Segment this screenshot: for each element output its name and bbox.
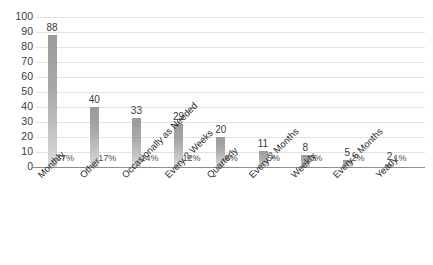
y-axis-tick-label: 100 [0,11,33,22]
y-axis: 1009080706050403020100 [0,0,33,167]
bar-percent-label: 8% [225,154,238,163]
bar [48,35,57,167]
gridline [36,77,425,78]
y-axis-tick-label: 80 [0,41,33,52]
y-axis-tick-label: 10 [0,146,33,157]
gridline [36,32,425,33]
bar-value-label: 29 [165,112,193,122]
y-axis-tick-label: 0 [0,161,33,172]
gridline [36,92,425,93]
bar-percent-label: 17% [98,154,116,163]
y-axis-tick-label: 70 [0,56,33,67]
bar-percent-label: 2% [351,154,364,163]
bar-percent-label: 5% [267,154,280,163]
bar-value-label: 8 [291,143,319,153]
gridline [36,17,425,18]
bar-percent-label: 1% [394,154,407,163]
y-axis-tick-label: 40 [0,101,33,112]
y-axis-tick-label: 30 [0,116,33,127]
bar-value-label: 33 [122,106,150,116]
y-axis-tick-label: 50 [0,86,33,97]
bar-percent-label: 14% [140,154,158,163]
bar-percent-label: 3% [309,154,322,163]
bar-chart: 1009080706050403020100 MonthlyOtherOccas… [0,0,433,265]
bar-value-label: 20 [207,125,235,135]
bar-value-label: 11 [249,139,277,149]
gridline [36,62,425,63]
gridline [36,47,425,48]
y-axis-tick-label: 20 [0,131,33,142]
bar-percent-label: 37% [56,154,74,163]
y-axis-tick-label: 60 [0,71,33,82]
bar-value-label: 88 [38,23,66,33]
bar-percent-label: 12% [183,154,201,163]
y-axis-tick-label: 90 [0,26,33,37]
bar-value-label: 40 [80,95,108,105]
